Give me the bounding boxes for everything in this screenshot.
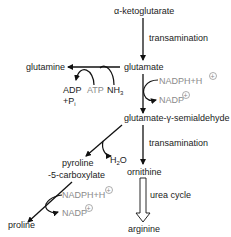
node-pyrroline-5-carboxylate-line2: -5-carboxylate — [48, 170, 105, 180]
arrow-atp-to-adp — [76, 70, 94, 85]
cofactor-nh3: NH3 — [107, 85, 124, 96]
label-transamination-1: transamination — [149, 33, 208, 43]
plus-sign: + — [211, 73, 215, 80]
plus-sign: + — [184, 92, 188, 99]
arrow-h2o-release — [103, 141, 111, 156]
pathway-diagram: α-ketoglutarate transamination glutamate… — [0, 0, 231, 237]
label-urea-cycle: urea cycle — [150, 190, 191, 200]
node-proline: proline — [8, 220, 35, 230]
node-alpha-ketoglutarate: α-ketoglutarate — [114, 6, 174, 16]
hollow-arrow-urea-cycle — [136, 178, 150, 222]
cofactor-nadph-1: NADPH+H — [159, 76, 202, 86]
node-glutamate: glutamate — [124, 62, 164, 72]
cofactor-nadph-2: NADPH+H — [62, 190, 105, 200]
cofactor-pi: +Pi — [63, 96, 76, 107]
cofactor-nadp-2: NADP — [62, 208, 87, 218]
label-transamination-2: transamination — [149, 138, 208, 148]
cofactor-adp: ADP — [63, 85, 82, 95]
plus-sign: + — [87, 205, 91, 212]
node-pyrroline-5-carboxylate-line1: pyroline — [62, 158, 94, 168]
cofactor-nadp-1: NADP — [159, 95, 184, 105]
plus-sign: + — [107, 187, 111, 194]
node-glutamate-gamma-semialdehyde: glutamate-γ-semialdehyde — [124, 113, 230, 123]
cofactor-h2o: H2O — [110, 155, 127, 166]
cofactor-atp: ATP — [87, 85, 104, 95]
node-ornithine: ornithine — [127, 167, 162, 177]
node-glutamine: glutamine — [26, 62, 65, 72]
node-arginine: arginine — [128, 224, 160, 234]
curve-nh3 — [100, 66, 114, 85]
arrow-nadph-to-nadp-1 — [144, 80, 158, 100]
